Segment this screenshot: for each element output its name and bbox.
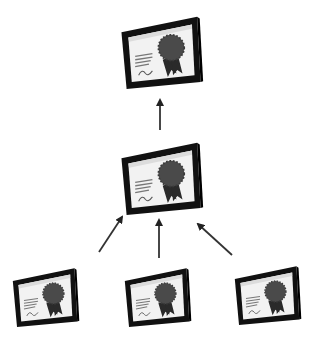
- certificate-leaf-3: [232, 260, 302, 330]
- certificate-icon: [118, 12, 204, 92]
- arrow-leaf1-to-intermediate: [99, 217, 122, 252]
- certificate-intermediate: [118, 138, 204, 218]
- certificate-leaf-1: [10, 262, 80, 332]
- certificate-icon: [118, 138, 204, 218]
- certificate-icon: [232, 260, 302, 330]
- certificate-root: [118, 12, 204, 92]
- arrow-leaf3-to-intermediate: [198, 224, 232, 255]
- certificate-icon: [122, 262, 192, 332]
- certificate-icon: [10, 262, 80, 332]
- certificate-leaf-2: [122, 262, 192, 332]
